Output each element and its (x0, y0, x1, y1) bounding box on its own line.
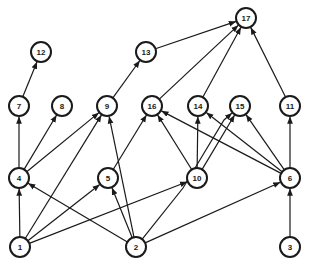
edge-6-to-16 (161, 111, 281, 174)
edge-6-to-14 (206, 112, 282, 171)
node-10: 10 (187, 168, 207, 188)
node-15: 15 (230, 96, 250, 116)
edge-1-to-4 (19, 188, 20, 237)
node-13: 13 (136, 42, 156, 62)
node-17: 17 (236, 8, 256, 28)
node-6: 6 (280, 168, 300, 188)
node-1: 1 (10, 237, 30, 257)
edge-16-to-17 (159, 25, 238, 99)
node-label: 8 (60, 102, 65, 111)
node-label: 12 (37, 48, 46, 57)
edge-13-to-17 (155, 21, 236, 48)
node-label: 14 (194, 102, 203, 111)
node-4: 4 (9, 168, 29, 188)
node-3: 3 (280, 237, 300, 257)
node-9: 9 (97, 96, 117, 116)
node-12: 12 (31, 42, 51, 62)
edge-14-to-17 (203, 27, 241, 97)
edge-2-to-6 (145, 182, 280, 243)
node-7: 7 (9, 96, 29, 116)
edge-7-to-12 (23, 62, 37, 97)
edge-11-to-17 (251, 27, 286, 97)
node-label: 10 (193, 174, 202, 183)
node-label: 3 (288, 243, 293, 252)
node-label: 16 (148, 102, 157, 111)
node-label: 15 (236, 102, 245, 111)
node-5: 5 (98, 168, 118, 188)
node-label: 17 (242, 14, 251, 23)
node-label: 7 (17, 102, 22, 111)
node-label: 2 (134, 243, 139, 252)
node-label: 1 (18, 243, 23, 252)
node-label: 13 (142, 48, 151, 57)
node-label: 11 (286, 102, 295, 111)
edge-2-to-4 (28, 183, 127, 242)
edge-10-to-15 (202, 115, 234, 169)
node-label: 4 (17, 174, 22, 183)
node-16: 16 (142, 96, 162, 116)
node-label: 9 (105, 102, 110, 111)
edge-9-to-13 (113, 61, 140, 98)
node-11: 11 (280, 96, 300, 116)
node-label: 6 (288, 174, 293, 183)
node-14: 14 (188, 96, 208, 116)
edge-10-to-14 (197, 116, 198, 168)
edge-10-to-16 (158, 115, 192, 170)
edge-1-to-5 (28, 184, 100, 240)
nodes-layer: 1234510678916141511121317 (9, 8, 300, 257)
edge-4-to-9 (27, 113, 99, 172)
node-2: 2 (126, 237, 146, 257)
node-label: 5 (106, 174, 111, 183)
dependency-graph: 1234510678916141511121317 (0, 0, 309, 272)
edge-6-to-15 (246, 115, 284, 170)
node-8: 8 (52, 96, 72, 116)
edge-5-to-16 (113, 115, 146, 170)
